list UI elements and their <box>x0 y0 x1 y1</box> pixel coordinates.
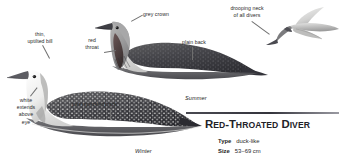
caption-summer: Summer <box>185 95 207 101</box>
callout-pale-speckled-back: pale speckled back <box>72 101 117 108</box>
panel-divider-rule <box>186 112 339 114</box>
callout-white-extends-above-eye: white extends above eye <box>9 97 43 126</box>
fact-row-type: Typeduck-like <box>218 138 260 144</box>
fact-value-type: duck-like <box>236 138 259 144</box>
fact-value-size: 53–69 cm <box>235 148 261 154</box>
callout-red-throat: red throat <box>79 37 105 51</box>
fact-label-type: Type <box>218 138 231 144</box>
leader-line-thin-uptilted-bill <box>42 45 50 59</box>
leader-line-pale-speckled-back <box>110 109 111 120</box>
leader-line-plain-back <box>192 47 193 60</box>
callout-grey-crown: grey crown <box>143 11 169 18</box>
field-guide-plate: thin, uptilted bill red throat grey crow… <box>0 0 339 157</box>
callout-plain-back: plain back <box>182 39 206 46</box>
fact-row-size: Size53–69 cm <box>218 148 261 154</box>
callout-drooping-neck: drooping neck of all divers <box>218 5 276 19</box>
species-info-panel: RED-THROATED DIVER Typeduck-like Size53–… <box>186 112 339 157</box>
caption-winter: Winter <box>135 148 152 154</box>
callout-thin-uptilted-bill: thin, uptilted bill <box>16 31 64 45</box>
fact-label-size: Size <box>218 148 230 154</box>
species-title: RED-THROATED DIVER <box>205 118 310 130</box>
species-title-text: RED-THROATED DIVER <box>205 118 310 130</box>
